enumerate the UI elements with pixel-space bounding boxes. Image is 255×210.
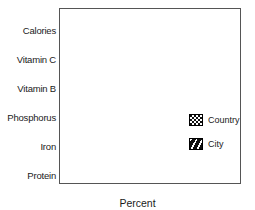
category-label-protein: Protein: [27, 171, 56, 181]
category-label-vitamin-b: Vitamin B: [17, 84, 56, 94]
category-label-phosphorus: Phosphorus: [7, 113, 56, 123]
x-axis-title-text: Percent: [119, 197, 155, 209]
legend-item-country: Country: [189, 112, 251, 128]
legend: Country City: [189, 112, 251, 160]
x-axis-title: Percent: [0, 197, 255, 209]
legend-swatch-city-icon: [189, 138, 203, 150]
legend-label-country: Country: [208, 115, 240, 125]
category-label-vitamin-c: Vitamin C: [17, 55, 56, 65]
bar-chart: Calories Vitamin C Vitamin B Phosphorus …: [0, 0, 255, 210]
legend-item-city: City: [189, 136, 251, 152]
category-label-calories: Calories: [23, 26, 56, 36]
category-label-iron: Iron: [40, 142, 56, 152]
legend-swatch-country-icon: [189, 114, 203, 126]
legend-label-city: City: [208, 139, 224, 149]
category-axis-labels: Calories Vitamin C Vitamin B Phosphorus …: [0, 8, 58, 184]
